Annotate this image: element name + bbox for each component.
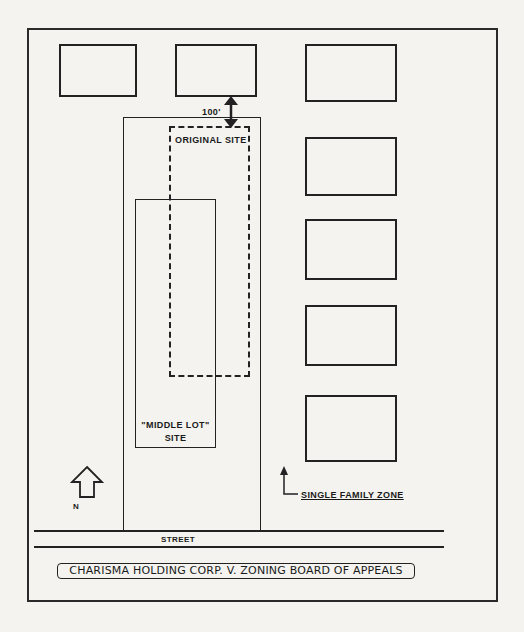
north-label: N [73, 502, 79, 511]
distance-label: 100' [202, 107, 221, 117]
building-right-1 [305, 44, 397, 102]
street-label: STREET [161, 535, 195, 544]
middle-lot-label: "MIDDLE LOT" SITE [135, 419, 216, 445]
building-top-left [59, 44, 137, 97]
street-edge-north [34, 530, 444, 532]
middle-lot-outline [135, 199, 216, 448]
building-top-middle [175, 44, 257, 97]
building-right-2 [305, 137, 397, 196]
building-right-5 [305, 395, 397, 462]
north-arrow-icon [70, 465, 104, 499]
single-family-zone-label: SINGLE FAMILY ZONE [301, 490, 404, 500]
building-right-4 [305, 305, 397, 366]
case-caption: CHARISMA HOLDING CORP. V. ZONING BOARD O… [57, 563, 415, 579]
original-site-label: ORIGINAL SITE [175, 135, 247, 145]
middle-lot-label-line1: "MIDDLE LOT" [135, 419, 216, 432]
double-headed-arrow-icon [222, 96, 240, 128]
map-frame [27, 28, 498, 602]
building-right-3 [305, 219, 397, 280]
middle-lot-label-line2: SITE [135, 432, 216, 445]
street-edge-south [34, 546, 444, 548]
